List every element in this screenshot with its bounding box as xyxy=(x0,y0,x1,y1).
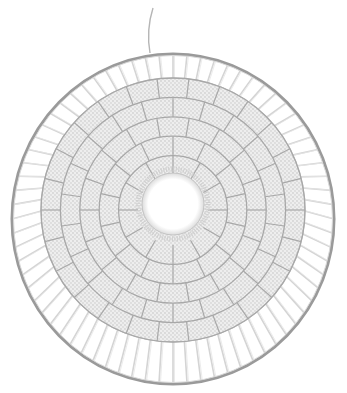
woven-wall-hanging-image xyxy=(0,0,347,393)
hanging-loop xyxy=(149,8,153,53)
